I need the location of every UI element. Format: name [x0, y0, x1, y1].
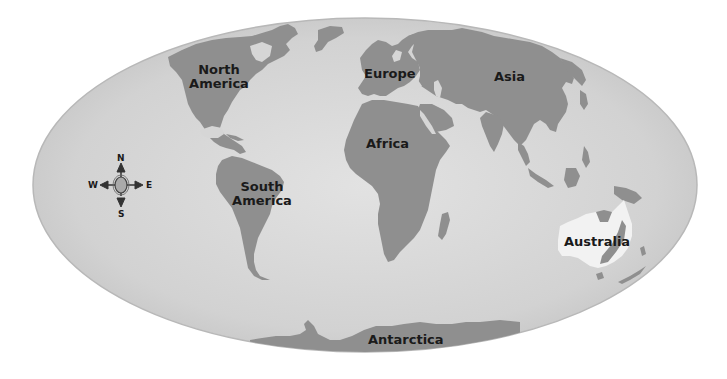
label-antarctica: Antarctica: [368, 333, 444, 347]
compass-north: N: [117, 154, 125, 163]
label-australia: Australia: [564, 235, 630, 249]
label-south-america: South America: [231, 180, 293, 208]
label-north-america: North America: [188, 63, 250, 91]
compass-west: W: [88, 181, 98, 190]
world-map-graphic: [0, 0, 727, 379]
label-africa: Africa: [366, 137, 409, 151]
label-asia: Asia: [494, 70, 525, 84]
label-europe: Europe: [364, 67, 416, 81]
compass-south: S: [118, 210, 124, 219]
compass-east: E: [146, 181, 152, 190]
world-map: North America South America Europe Asia …: [0, 0, 727, 379]
